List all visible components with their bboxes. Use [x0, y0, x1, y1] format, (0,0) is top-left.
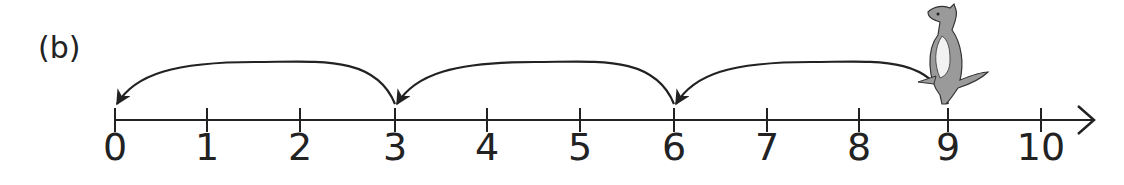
tick-label: 0 — [103, 128, 127, 166]
tick-label: 7 — [755, 128, 779, 166]
tick-label: 6 — [662, 128, 686, 166]
jump-arc — [397, 62, 674, 104]
tick-label: 10 — [1017, 128, 1065, 166]
kangaroo-icon — [918, 4, 988, 104]
jump-arcs — [117, 62, 948, 104]
tick-label: 9 — [936, 128, 960, 166]
tick-label: 1 — [195, 128, 219, 166]
tick-label: 4 — [475, 128, 499, 166]
jump-arc — [117, 62, 395, 104]
jump-arc — [676, 62, 948, 104]
tick-label: 3 — [383, 128, 407, 166]
number-line-diagram: (b) 012345678910 — [0, 0, 1124, 185]
tick-label: 8 — [847, 128, 871, 166]
tick-label: 2 — [288, 128, 312, 166]
tick-label: 5 — [568, 128, 592, 166]
